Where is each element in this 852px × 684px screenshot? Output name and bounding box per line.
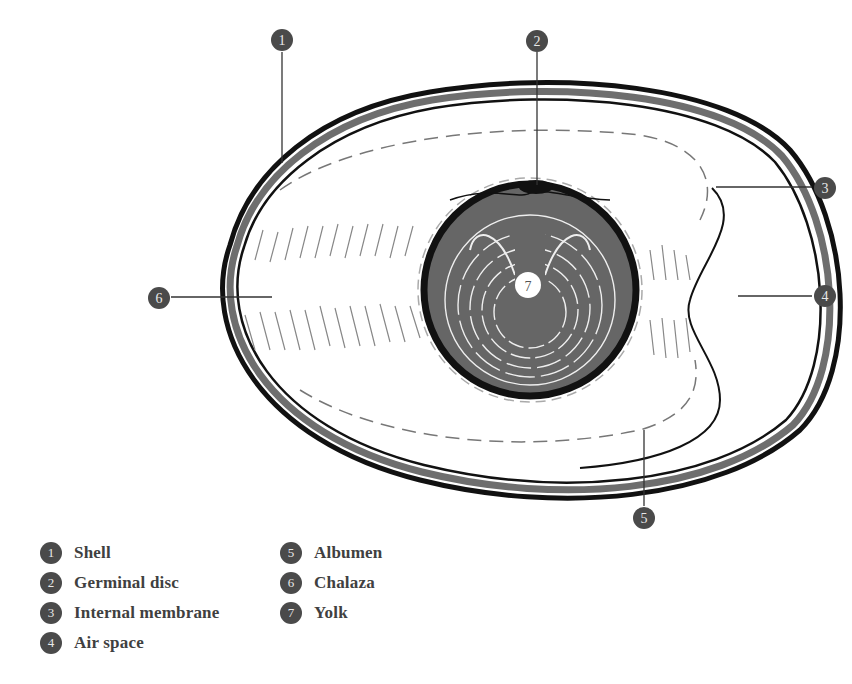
legend-item-germinal-disc: 2 Germinal disc (40, 570, 179, 596)
svg-text:4: 4 (822, 289, 829, 304)
legend-label: Yolk (314, 603, 348, 623)
svg-text:3: 3 (822, 181, 829, 196)
legend-label: Shell (74, 543, 111, 563)
callout-badge-5: 5 (633, 507, 655, 529)
legend-badge: 2 (40, 572, 62, 594)
legend-item-albumen: 5 Albumen (280, 540, 382, 566)
legend-label: Internal membrane (74, 603, 220, 623)
svg-text:1: 1 (279, 33, 286, 48)
legend-badge: 6 (280, 572, 302, 594)
callout-badge-1: 1 (271, 29, 293, 51)
legend-item-chalaza: 6 Chalaza (280, 570, 375, 596)
svg-text:5: 5 (641, 511, 648, 526)
legend-badge: 7 (280, 602, 302, 624)
svg-text:6: 6 (156, 291, 163, 306)
yolk: 7 (418, 178, 642, 402)
callout-badge-4: 4 (814, 285, 836, 307)
legend-badge: 4 (40, 632, 62, 654)
callout-badge-2: 2 (526, 30, 548, 52)
legend-label: Albumen (314, 543, 382, 563)
yolk-callout-number: 7 (525, 279, 532, 294)
legend-badge: 3 (40, 602, 62, 624)
callout-badge-3: 3 (814, 177, 836, 199)
legend-badge: 1 (40, 542, 62, 564)
legend-label: Air space (74, 633, 144, 653)
legend-item-air-space: 4 Air space (40, 630, 144, 656)
legend-badge: 5 (280, 542, 302, 564)
germinal-disc (519, 180, 553, 194)
legend-item-internal-membrane: 3 Internal membrane (40, 600, 220, 626)
callout-badge-6: 6 (148, 287, 170, 309)
legend-item-shell: 1 Shell (40, 540, 111, 566)
legend-label: Germinal disc (74, 573, 179, 593)
svg-text:2: 2 (534, 34, 541, 49)
legend-item-yolk: 7 Yolk (280, 600, 348, 626)
legend-label: Chalaza (314, 573, 375, 593)
